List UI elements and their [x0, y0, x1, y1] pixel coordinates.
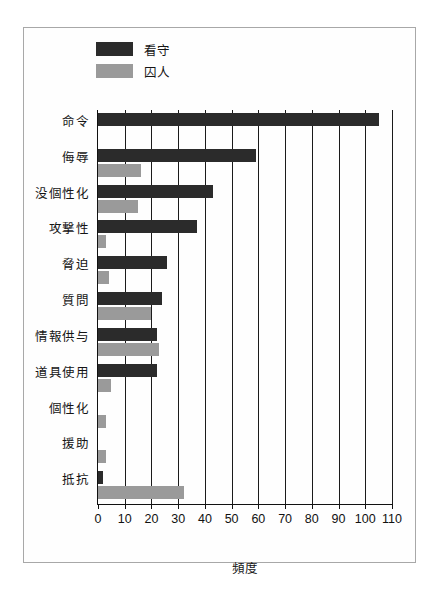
bar-囚人 — [98, 486, 184, 499]
tick-label-100: 100 — [355, 512, 376, 526]
category-label: 個性化 — [49, 397, 89, 416]
tick-label-90: 90 — [332, 512, 346, 526]
bar-row: 命令 — [98, 112, 392, 148]
bar-看守 — [98, 113, 379, 126]
tick-label-80: 80 — [305, 512, 319, 526]
tick-label-70: 70 — [278, 512, 292, 526]
bar-囚人 — [98, 379, 111, 392]
category-label: 援助 — [62, 433, 89, 452]
bar-row: 侮辱 — [98, 148, 392, 184]
legend-swatch-guard — [96, 42, 133, 56]
tick-label-20: 20 — [145, 512, 159, 526]
bar-看守 — [98, 220, 197, 233]
plot-area: 0102030405060708090100110 命令侮辱没個性化攻撃性脅迫質… — [98, 110, 392, 504]
category-label: 情報供与 — [35, 325, 89, 344]
bar-囚人 — [98, 271, 109, 284]
bar-看守 — [98, 185, 213, 198]
bar-看守 — [98, 471, 103, 484]
legend-label-prisoner: 囚人 — [144, 62, 171, 81]
bar-row: 没個性化 — [98, 184, 392, 220]
bar-row: 質問 — [98, 291, 392, 327]
tick-label-60: 60 — [251, 512, 265, 526]
tick-mark-110 — [392, 504, 393, 509]
bar-row: 攻撃性 — [98, 219, 392, 255]
category-label: 命令 — [62, 111, 89, 130]
gridline-110 — [392, 110, 393, 504]
figure-frame: 看守 囚人 0102030405060708090100110 命令侮辱没個性化… — [23, 27, 416, 563]
bar-囚人 — [98, 450, 106, 463]
category-label: 質問 — [62, 290, 89, 309]
category-label: 脅迫 — [62, 254, 89, 273]
tick-label-50: 50 — [225, 512, 239, 526]
category-label: 道具使用 — [35, 361, 89, 380]
bar-row: 抵抗 — [98, 470, 392, 506]
bar-row: 個性化 — [98, 399, 392, 435]
tick-label-0: 0 — [95, 512, 102, 526]
bar-囚人 — [98, 307, 151, 320]
category-label: 侮辱 — [62, 146, 89, 165]
bar-看守 — [98, 292, 162, 305]
category-label: 没個性化 — [35, 182, 89, 201]
legend-item-prisoner: 囚人 — [96, 60, 171, 82]
bar-囚人 — [98, 235, 106, 248]
tick-label-30: 30 — [171, 512, 185, 526]
bar-看守 — [98, 328, 157, 341]
bar-囚人 — [98, 415, 106, 428]
tick-label-10: 10 — [118, 512, 132, 526]
category-label: 抵抗 — [62, 469, 89, 488]
bar-row: 援助 — [98, 434, 392, 470]
legend-item-guard: 看守 — [96, 38, 171, 60]
bar-看守 — [98, 149, 256, 162]
bar-row: 情報供与 — [98, 327, 392, 363]
tick-label-110: 110 — [382, 512, 402, 526]
tick-label-40: 40 — [198, 512, 212, 526]
bar-看守 — [98, 256, 167, 269]
legend-swatch-prisoner — [96, 64, 133, 78]
bar-囚人 — [98, 343, 159, 356]
bar-囚人 — [98, 200, 138, 213]
bar-看守 — [98, 364, 157, 377]
bar-row: 脅迫 — [98, 255, 392, 291]
category-label: 攻撃性 — [49, 218, 89, 237]
x-axis-title: 頻度 — [98, 558, 392, 577]
chart-legend: 看守 囚人 — [96, 38, 171, 82]
legend-label-guard: 看守 — [144, 40, 171, 59]
bar-囚人 — [98, 164, 141, 177]
bar-row: 道具使用 — [98, 363, 392, 399]
